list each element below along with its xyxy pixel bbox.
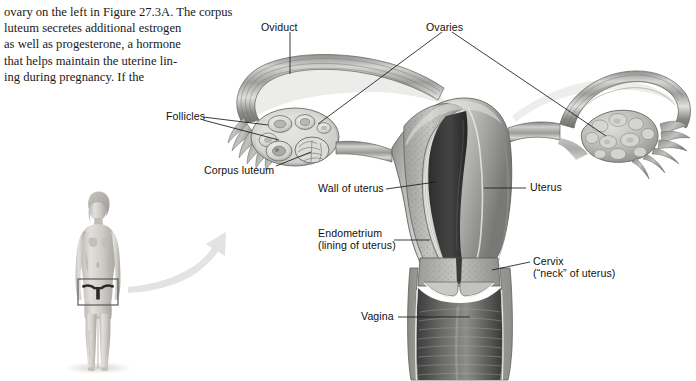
right-uterine-horn bbox=[508, 122, 560, 142]
label-follicles: Follicles bbox=[166, 110, 205, 122]
label-endometrium: Endometrium bbox=[318, 227, 382, 239]
left-uterine-horn bbox=[336, 141, 392, 162]
label-endometrium-sub: (lining of uterus) bbox=[318, 239, 396, 251]
label-corpus-luteum: Corpus luteum bbox=[204, 164, 274, 176]
label-ovaries: Ovaries bbox=[426, 21, 463, 33]
label-vagina: Vagina bbox=[361, 310, 394, 322]
vaginal-canal bbox=[416, 288, 502, 380]
label-wall-of-uterus: Wall of uterus bbox=[318, 182, 384, 194]
uterus-body bbox=[392, 98, 512, 262]
label-uterus: Uterus bbox=[530, 181, 562, 193]
label-oviduct: Oviduct bbox=[261, 21, 298, 33]
corpus-luteum-structure bbox=[295, 137, 329, 163]
label-cervix-sub: (“neck” of uterus) bbox=[533, 267, 615, 279]
left-ovary-cross-section bbox=[251, 108, 339, 166]
cervix-vagina-group bbox=[408, 258, 513, 380]
right-oviduct-group bbox=[508, 71, 691, 179]
figure-page: ovary on the left in Figure 27.3A. The c… bbox=[0, 0, 696, 381]
label-cervix: Cervix bbox=[533, 255, 564, 267]
